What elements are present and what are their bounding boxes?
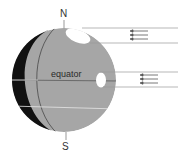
north-label: N (60, 9, 67, 19)
globe (0, 0, 120, 160)
equator-label: equator (51, 70, 82, 79)
equator-arrows (140, 74, 158, 84)
south-label: S (62, 142, 69, 152)
equator-sun-spot (96, 73, 106, 88)
high-latitude-arrows (130, 30, 148, 40)
earth-sunlight-diagram (0, 0, 190, 160)
